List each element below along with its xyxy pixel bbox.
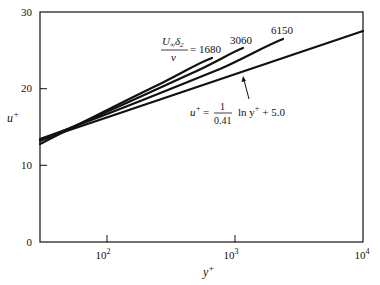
svg-text:u+=: u+= [190,104,209,118]
label-1680: = 1680 [190,43,221,55]
x-tick-1000: 103 [224,247,239,261]
y-tick-10: 10 [21,159,33,171]
svg-text:ln y++ 5.0: ln y++ 5.0 [238,104,286,118]
y-axis-label: u+ [7,109,19,125]
svg-text:U∞δ2: U∞δ2 [162,35,184,49]
chart: 0 10 20 30 u+ 102 103 104 y+ U∞δ2 ν = 16… [0,0,380,285]
arrow-icon [242,76,247,82]
svg-text:0.41: 0.41 [214,115,232,126]
x-axis-label: y+ [202,263,214,279]
y-tick-30: 30 [21,6,33,18]
y-axis: 0 10 20 30 u+ [7,6,47,248]
x-tick-100: 102 [96,247,111,261]
svg-text:ν: ν [171,51,176,63]
label-3060: 3060 [230,34,253,46]
label-6150: 6150 [271,24,294,36]
x-tick-10000: 104 [355,247,370,261]
y-tick-20: 20 [21,82,33,94]
y-tick-0: 0 [27,236,33,248]
svg-text:1: 1 [220,101,225,112]
